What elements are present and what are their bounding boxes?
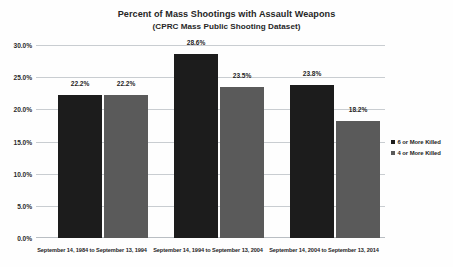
data-label-6-or-more-period-2: 28.6% [174,39,218,46]
y-tick-label-10: 10.0% [0,170,32,177]
bar-6-or-more-killed-period-2[interactable] [174,54,218,238]
chart-title: Percent of Mass Shootings with Assault W… [0,9,453,21]
x-category-label-2: September 14, 1994 to September 13, 2004 [151,247,265,253]
data-label-4-or-more-period-2: 23.5% [220,72,264,79]
y-tick-label-30: 30.0% [0,42,32,49]
bar-4-or-more-killed-period-3[interactable] [336,121,380,238]
legend-item-4-or-more-killed[interactable]: 4 or More Killed [391,147,441,158]
data-label-6-or-more-period-1: 22.2% [58,80,102,87]
bar-6-or-more-killed-period-1[interactable] [58,95,102,238]
legend-swatch-icon [391,151,395,155]
chart-legend: 6 or More Killed 4 or More Killed [391,136,441,158]
legend-item-6-or-more-killed[interactable]: 6 or More Killed [391,136,441,147]
bar-4-or-more-killed-period-1[interactable] [104,95,148,238]
y-tick-label-25: 25.0% [0,74,32,81]
chart-subtitle: (CPRC Mass Public Shooting Dataset) [0,22,453,32]
legend-label-4-or-more-killed: 4 or More Killed [398,150,441,156]
legend-label-6-or-more-killed: 6 or More Killed [398,139,441,145]
bar-6-or-more-killed-period-3[interactable] [290,85,334,238]
bar-chart: Percent of Mass Shootings with Assault W… [0,0,453,267]
legend-swatch-icon [391,140,395,144]
y-tick-label-0: 0.0% [0,235,32,242]
bar-4-or-more-killed-period-2[interactable] [220,87,264,238]
y-tick-label-20: 20.0% [0,106,32,113]
chart-title-block: Percent of Mass Shootings with Assault W… [0,9,453,32]
y-tick-label-15: 15.0% [0,138,32,145]
data-label-4-or-more-period-3: 18.2% [336,106,380,113]
y-tick-label-5: 5.0% [0,202,32,209]
data-label-6-or-more-period-3: 23.8% [290,70,334,77]
x-category-label-3: September 14, 2004 to September 13, 2014 [267,247,381,253]
data-label-4-or-more-period-1: 22.2% [104,80,148,87]
x-category-label-1: September 14, 1984 to September 13, 1994 [35,247,149,253]
